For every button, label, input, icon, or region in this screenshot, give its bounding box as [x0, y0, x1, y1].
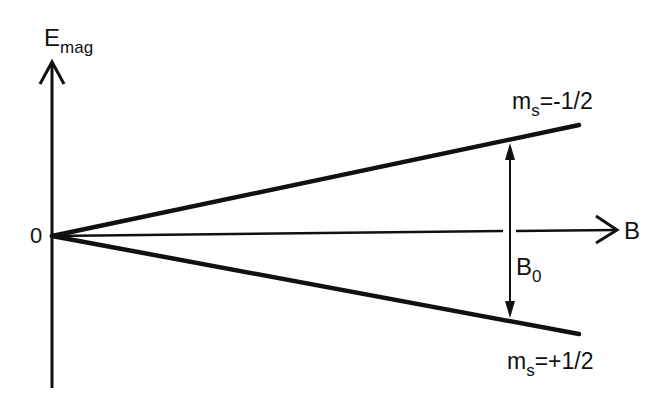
gap-label-main: B	[516, 253, 532, 280]
upper-level-label-value: =-1/2	[540, 88, 593, 114]
x-axis-label: B	[624, 219, 640, 243]
gap-arrow-down-icon	[505, 301, 515, 318]
gap-label: B0	[516, 255, 541, 279]
gap-arrow-up-icon	[505, 143, 515, 160]
upper-level-label: ms=-1/2	[512, 90, 593, 113]
y-axis-label-sub: mag	[60, 38, 93, 57]
x-axis-right	[516, 230, 616, 231]
upper-level-label-main: m	[512, 88, 531, 114]
lower-level-label: ms=+1/2	[507, 350, 594, 373]
lower-energy-line	[52, 236, 579, 334]
lower-level-label-value: =+1/2	[535, 348, 594, 374]
upper-energy-line	[52, 125, 579, 236]
gap-label-sub: 0	[532, 267, 541, 286]
energy-diagram	[0, 0, 665, 404]
x-axis-left	[52, 231, 503, 236]
origin-label: 0	[30, 225, 42, 247]
y-axis-label: Emag	[44, 26, 93, 50]
y-axis-label-main: E	[44, 24, 60, 51]
upper-level-label-sub: s	[531, 101, 540, 120]
lower-level-label-sub: s	[526, 361, 535, 380]
lower-level-label-main: m	[507, 348, 526, 374]
